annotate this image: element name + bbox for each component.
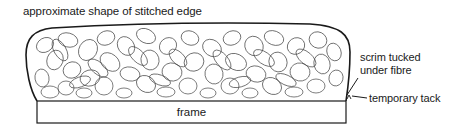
scrim-annotation-line1: scrim tucked [360, 51, 421, 64]
stitched-edge-label: approximate shape of stitched edge [23, 5, 202, 18]
scrim-annotation-line2: under fibre [360, 64, 421, 77]
frame-label: frame [37, 101, 346, 123]
temporary-tack-annotation: temporary tack [369, 92, 440, 105]
tack-leader-line [352, 96, 367, 98]
fibre-loops [34, 25, 345, 98]
scrim-annotation: scrim tucked under fibre [360, 51, 421, 77]
